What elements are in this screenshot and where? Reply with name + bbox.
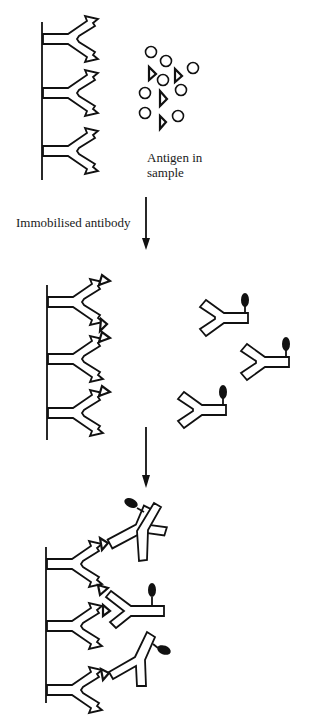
enzyme-label bbox=[156, 643, 172, 656]
process-arrow bbox=[142, 427, 150, 488]
immobilised-antibody bbox=[43, 128, 98, 174]
labelled-antibody bbox=[200, 293, 249, 336]
immobilised-antibody bbox=[43, 16, 98, 62]
antibody-with-antigen bbox=[48, 275, 110, 331]
enzyme-label bbox=[123, 496, 139, 510]
enzyme-label bbox=[219, 385, 227, 399]
immobilised-antibody bbox=[47, 603, 102, 649]
antibody-with-antigen bbox=[48, 332, 110, 382]
labelled-antibody-bound bbox=[106, 583, 164, 628]
enzyme-label bbox=[241, 293, 249, 307]
process-arrow bbox=[142, 197, 150, 250]
antigen-cluster bbox=[140, 47, 199, 130]
labelled-antibody bbox=[178, 385, 227, 428]
immobilised-antibody bbox=[43, 70, 98, 116]
enzyme-label bbox=[148, 583, 156, 597]
stage-2 bbox=[47, 275, 290, 440]
antigen-label: Antigen in sample bbox=[147, 150, 202, 180]
enzyme-label bbox=[282, 337, 290, 351]
sandwich-assay-diagram bbox=[0, 0, 317, 728]
labelled-antibody bbox=[241, 337, 290, 380]
antibody-with-antigen bbox=[48, 386, 110, 436]
labelled-antibody-bound bbox=[109, 632, 172, 686]
immobilised-antibody bbox=[47, 541, 102, 587]
stage-3 bbox=[46, 496, 172, 713]
immobilised-antibody bbox=[47, 667, 102, 713]
immobilised-antibody-label: Immobilised antibody bbox=[16, 215, 130, 230]
